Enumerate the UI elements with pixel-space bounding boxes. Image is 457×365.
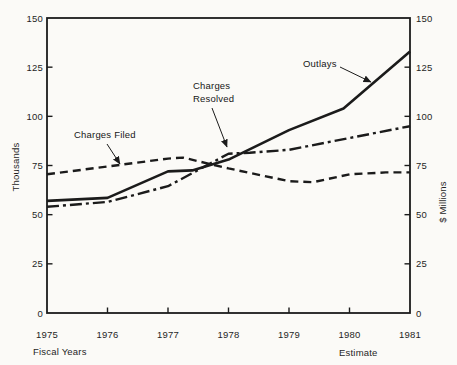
series-outlays <box>47 51 410 201</box>
right-axis-tick-label: 0 <box>416 308 456 319</box>
plot-canvas <box>0 0 457 365</box>
x-axis-tick-label: 1977 <box>150 329 186 340</box>
annotation-charges-resolved-line1: Charges <box>193 80 230 91</box>
left-axis-tick-label: 50 <box>0 209 43 220</box>
x-axis-tick-label: 1976 <box>90 329 126 340</box>
annotation-charges-filed: Charges Filed <box>74 128 136 141</box>
x-axis-tick-label: 1980 <box>332 329 368 340</box>
right-axis-title: $ Millions <box>437 170 449 234</box>
right-axis-tick-label: 75 <box>416 160 456 171</box>
left-axis-tick-label: 25 <box>0 258 43 269</box>
x-axis-tick-label: 1975 <box>29 329 65 340</box>
x-axis-estimate-note: Estimate <box>339 347 378 358</box>
annotation-outlays: Outlays <box>303 57 337 70</box>
annotation-charges-resolved: ChargesResolved <box>193 79 234 105</box>
left-axis-tick-label: 125 <box>0 62 43 73</box>
right-axis-tick-label: 50 <box>416 209 456 220</box>
right-axis-tick-label: 125 <box>416 62 456 73</box>
charges-filed-arrow-icon <box>107 144 120 164</box>
left-axis-tick-label: 100 <box>0 111 43 122</box>
right-axis-tick-label: 100 <box>416 111 456 122</box>
charges-resolved-arrow-icon <box>212 108 227 147</box>
right-axis-tick-label: 25 <box>416 258 456 269</box>
series-charges-filed <box>47 158 410 183</box>
line-chart: Thousands $ Millions Fiscal Years Estima… <box>0 0 457 365</box>
left-axis-tick-label: 75 <box>0 160 43 171</box>
x-axis-title: Fiscal Years <box>33 346 87 357</box>
right-axis-tick-label: 150 <box>416 13 456 24</box>
plot-frame <box>47 18 410 313</box>
left-axis-tick-label: 0 <box>0 308 43 319</box>
left-axis-tick-label: 150 <box>0 13 43 24</box>
annotation-charges-resolved-line2: Resolved <box>193 93 234 104</box>
x-axis-tick-label: 1978 <box>211 329 247 340</box>
x-axis-tick-label: 1979 <box>271 329 307 340</box>
outlays-arrow-icon <box>340 67 371 82</box>
x-axis-tick-label: 1981 <box>392 329 428 340</box>
